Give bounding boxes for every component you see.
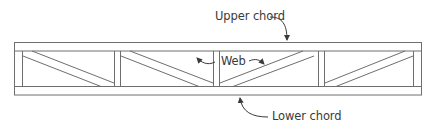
upper-chord [15,43,422,52]
diagonal-webs [23,51,413,87]
web-arrow-right [249,60,264,64]
web-label: Web [221,56,246,68]
upper-chord-label: Upper chord [215,11,285,23]
web-arrow-left [197,58,215,64]
truss-diagram: Upper chord Web Lower chord [0,0,433,128]
lower-chord-arrow [240,98,268,117]
lower-chord-label: Lower chord [272,111,341,123]
lower-chord [15,87,422,96]
